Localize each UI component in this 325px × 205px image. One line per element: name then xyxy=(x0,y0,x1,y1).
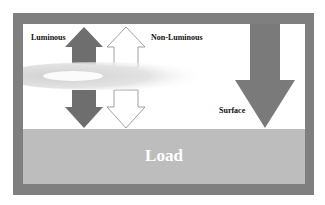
non-luminous-down-arrow-icon xyxy=(107,90,145,128)
non-luminous-label: Non-Luminous xyxy=(151,33,203,42)
load-label: Load xyxy=(23,146,305,166)
furnace-wall: Luminous Non-Luminous Surface Load xyxy=(13,13,314,195)
surface-label: Surface xyxy=(219,106,245,115)
load-region: Load xyxy=(23,129,305,184)
luminous-down-arrow-icon xyxy=(72,90,96,108)
furnace-chamber: Luminous Non-Luminous Surface Load xyxy=(23,24,305,184)
luminous-label: Luminous xyxy=(31,33,66,42)
non-luminous-up-arrow-icon xyxy=(107,27,145,68)
